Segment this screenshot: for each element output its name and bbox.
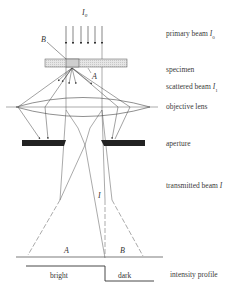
scattered-rays (18, 68, 130, 139)
intensity-profile-curve (26, 266, 154, 281)
label-transmitted-beam: transmitted beam I (166, 181, 222, 190)
label-primary-beam: primary beam I0 (166, 29, 215, 40)
label-specimen: specimen (166, 65, 194, 74)
point-a-label: A (91, 72, 97, 81)
point-b-label: B (41, 35, 46, 44)
label-objective-lens: objective lens (166, 102, 207, 111)
label-scattered-beam: scattered beam I1 (166, 82, 218, 93)
specimen-region-b (66, 59, 79, 67)
screen-b-label: B (120, 246, 125, 255)
transmitted-rays (28, 44, 143, 258)
bright-field-diagram: I0 B A (0, 0, 243, 289)
label-aperture: aperture (166, 139, 191, 148)
objective-lens (6, 98, 158, 117)
incident-beam-label: I0 (81, 8, 88, 18)
point-b-leader (47, 42, 66, 59)
profile-bright-label: bright (50, 271, 69, 280)
label-intensity-profile: intensity profile (170, 270, 218, 279)
screen-a-label: A (63, 246, 69, 255)
profile-dark-label: dark (118, 271, 132, 280)
transmitted-beam-symbol: I (97, 191, 101, 200)
specimen (45, 59, 127, 67)
primary-beam-arrows (66, 26, 102, 44)
